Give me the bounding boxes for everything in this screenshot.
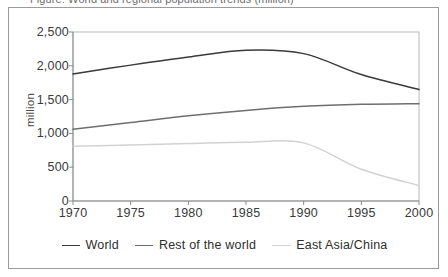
x-axis-tick-label: 1985	[216, 206, 276, 220]
y-axis-tick-label: 1,000	[37, 127, 69, 139]
x-axis-tick: 1995	[331, 206, 391, 220]
x-axis-tick: 1970	[43, 206, 103, 220]
x-axis-tick: 2000	[389, 206, 448, 220]
y-axis-tick: 500	[19, 161, 69, 173]
legend-label: Rest of the world	[159, 238, 256, 252]
legend-line-swatch-icon	[62, 245, 80, 246]
y-axis-tick: 1,500	[19, 94, 69, 106]
x-axis-tick: 1980	[158, 206, 218, 220]
x-axis-tick-label: 1995	[331, 206, 391, 220]
legend-label: East Asia/China	[296, 238, 387, 252]
y-axis-tick-label: 2,500	[37, 26, 69, 38]
legend-line-swatch-icon	[272, 245, 290, 246]
x-axis-tick: 1990	[274, 206, 334, 220]
legend-item[interactable]: East Asia/China	[272, 238, 387, 252]
y-axis-tick: 2,000	[19, 60, 69, 72]
chart-frame: million 05001,0001,5002,0002,500 1970197…	[8, 7, 439, 269]
legend-item[interactable]: World	[62, 238, 119, 252]
legend-item[interactable]: Rest of the world	[135, 238, 256, 252]
x-axis-tick-label: 1975	[101, 206, 161, 220]
x-axis-tick: 1985	[216, 206, 276, 220]
legend-label: World	[86, 238, 119, 252]
line-chart-plot	[9, 8, 438, 268]
legend-line-swatch-icon	[135, 245, 153, 246]
y-axis-tick: 2,500	[19, 26, 69, 38]
clipped-caption: Figure: World and regional population tr…	[0, 0, 448, 7]
x-axis-tick-label: 2000	[389, 206, 448, 220]
y-axis-tick-label: 2,000	[37, 60, 69, 72]
y-axis-tick-label: 1,500	[37, 94, 69, 106]
figure-container: Figure: World and regional population tr…	[0, 0, 448, 277]
x-axis-tick-label: 1970	[43, 206, 103, 220]
y-axis-tick-label: 500	[48, 161, 69, 173]
x-axis-tick-label: 1980	[158, 206, 218, 220]
chart-legend: WorldRest of the worldEast Asia/China	[9, 238, 440, 252]
x-axis-tick-label: 1990	[274, 206, 334, 220]
y-axis-tick: 1,000	[19, 127, 69, 139]
x-axis-tick: 1975	[101, 206, 161, 220]
